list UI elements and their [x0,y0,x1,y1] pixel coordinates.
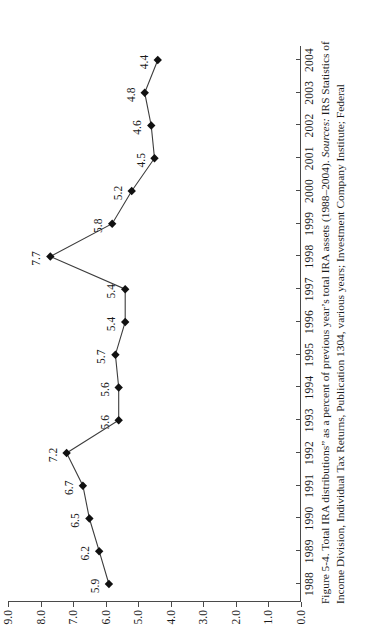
y-tick [301,602,302,607]
data-point-value-label: 5.6 [99,382,111,396]
x-axis-label: 1999 [303,212,315,236]
y-tick [268,602,269,607]
data-series-line [8,46,301,602]
data-point-value-label: 5.4 [105,284,117,298]
series-polyline [50,60,158,584]
data-point-marker [150,154,158,162]
y-tick [106,602,107,607]
data-point-marker [85,514,93,522]
data-point-value-label: 4.4 [138,55,150,69]
data-point-value-label: 6.7 [63,481,75,495]
x-axis-label: 2003 [303,81,315,105]
x-axis-label: 2000 [303,179,315,203]
y-tick [73,602,74,607]
data-point-value-label: 4.8 [125,88,137,102]
data-point-value-label: 5.7 [95,350,107,364]
data-point-marker [128,187,136,195]
data-point-value-label: 7.2 [47,448,59,462]
data-point-value-label: 5.9 [89,579,101,593]
y-tick [236,602,237,607]
data-point-marker [108,220,116,228]
y-axis-label: 7.0 [67,610,79,624]
data-point-marker [121,285,129,293]
x-axis-label: 1992 [303,441,315,465]
x-axis-label: 1989 [303,539,315,563]
y-axis-label: 5.0 [132,610,144,624]
y-axis-label: 3.0 [197,610,209,624]
data-point-marker [79,482,87,490]
x-axis-label: 1993 [303,408,315,432]
x-axis-label: 2004 [303,48,315,72]
data-point-marker [121,318,129,326]
data-point-marker [95,547,103,555]
y-axis-label: 2.0 [230,610,242,624]
y-tick [138,602,139,607]
data-point-value-label: 7.7 [30,251,42,265]
data-point-marker [114,383,122,391]
y-tick [203,602,204,607]
y-axis-label: 8.0 [35,610,47,624]
data-point-value-label: 5.4 [105,317,117,331]
data-point-marker [46,252,54,260]
data-point-marker [111,351,119,359]
y-tick [8,602,9,607]
x-axis-label: 2002 [303,114,315,138]
y-axis-label: 1.0 [262,610,274,624]
data-point-value-label: 4.5 [135,153,147,167]
data-point-value-label: 5.2 [112,186,124,200]
data-point-marker [141,89,149,97]
y-axis-label: 9.0 [2,610,14,624]
data-point-marker [154,56,162,64]
x-axis-label: 1997 [303,277,315,301]
x-axis-label: 1998 [303,245,315,269]
caption-sources-label: Sources: [319,118,331,157]
data-point-marker [62,449,70,457]
x-axis-label: 1991 [303,474,315,498]
data-point-value-label: 4.6 [131,120,143,134]
x-axis-label: 1994 [303,376,315,400]
data-point-marker [105,580,113,588]
x-axis-label: 1988 [303,572,315,596]
x-axis-label: 2001 [303,146,315,170]
y-axis-label: 0.0 [295,610,307,624]
figure-caption: Figure 5-4. Total IRA distributions” as … [318,24,348,604]
y-tick [41,602,42,607]
x-axis-label: 1995 [303,343,315,367]
data-point-value-label: 6.2 [79,546,91,560]
data-point-marker [114,416,122,424]
x-axis-label: 1996 [303,310,315,334]
y-axis-label: 6.0 [100,610,112,624]
data-point-marker [147,121,155,129]
chart-plot-area: 1988198919901991199219931994199519961997… [8,46,301,602]
caption-figure-number: Figure 5-4. [319,553,331,604]
data-point-value-label: 5.8 [92,219,104,233]
data-point-value-label: 6.5 [69,513,81,527]
caption-main-text: Total IRA distributions” as a percent of… [319,160,331,550]
x-axis-label: 1990 [303,507,315,531]
y-axis-label: 4.0 [165,610,177,624]
data-point-value-label: 5.6 [99,415,111,429]
y-tick [171,602,172,607]
rotated-figure-stage: 1988198919901991199219931994199519961997… [0,0,376,634]
